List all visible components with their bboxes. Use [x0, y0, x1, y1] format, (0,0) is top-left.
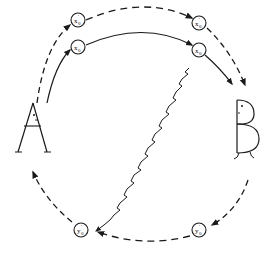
wavy-signal-line — [96, 68, 189, 231]
diagram-canvas: x ' 0 x 0 x ' 0 x 0 y ' 0 y ' 0 — [0, 0, 272, 258]
node-x-top-left: x 0 — [71, 40, 85, 54]
svg-text:': ' — [81, 224, 82, 229]
node-yprime-bottom-right: y ' 0 — [192, 223, 206, 237]
svg-text:': ' — [78, 14, 79, 19]
node-yprime-bottom-left: y ' 0 — [74, 223, 88, 237]
outer-dashed-arc-top — [37, 7, 245, 103]
node-x-top-right: x 0 — [192, 43, 206, 57]
node-xprime-top-right: x ' 0 — [192, 16, 206, 30]
node-xprime-top-left: x ' 0 — [71, 13, 85, 27]
svg-text:': ' — [199, 224, 200, 229]
bottom-dashed-arc — [33, 172, 248, 241]
actor-b-figure — [234, 100, 259, 159]
svg-text:': ' — [199, 17, 200, 22]
actor-a-figure — [15, 103, 51, 152]
